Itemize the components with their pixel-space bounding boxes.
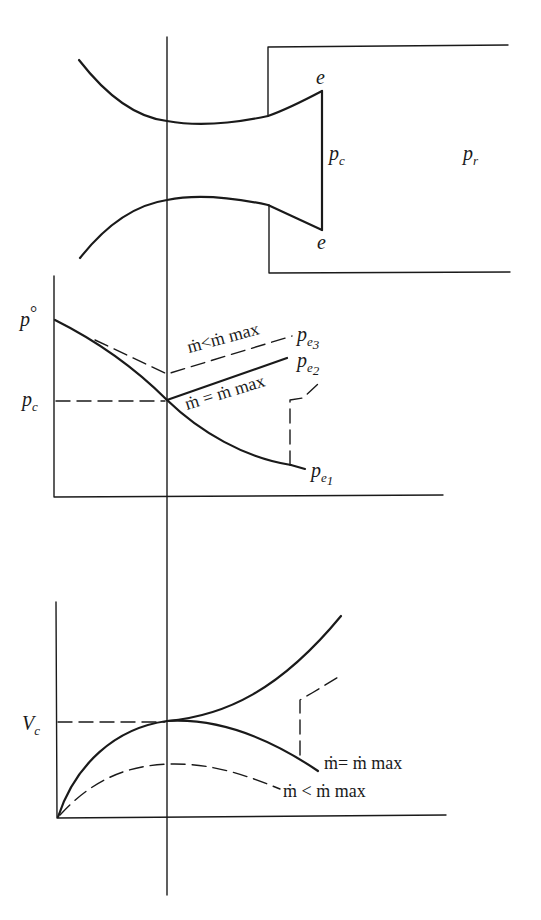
velocity-curve-rise — [58, 721, 167, 817]
pe3-label: pe3 — [295, 323, 320, 352]
pressure-curve-supersonic-tail — [291, 465, 305, 469]
nozzle-flow-diagram: e e pc pr p° pc ṁ<ṁ max ṁ = ṁ m — [0, 0, 541, 920]
velocity-shock-line — [300, 676, 340, 755]
exit-pressure-label: pc — [327, 142, 345, 168]
nozzle-sketch: e e pc pr — [79, 45, 510, 273]
nozzle-upper-wall — [79, 60, 322, 124]
pressure-annotation-equal: ṁ = ṁ max — [182, 371, 267, 414]
pressure-annotation-less: ṁ<ṁ max — [185, 318, 261, 356]
velocity-plot: Vc ṁ= ṁ max ṁ < ṁ max — [22, 602, 446, 818]
p-critical-label: pc — [20, 388, 38, 414]
velocity-annotation-equal: ṁ= ṁ max — [324, 753, 402, 773]
velocity-annotation-less: ṁ < ṁ max — [283, 781, 366, 801]
pressure-shock-line — [290, 383, 319, 465]
p-stagnation-label: p° — [18, 303, 37, 331]
velocity-axes — [56, 602, 446, 818]
velocity-curve-subsonic — [167, 721, 318, 771]
receiver-chamber-bottom — [269, 205, 510, 273]
v-critical-label: Vc — [22, 712, 40, 738]
nozzle-lower-wall — [80, 197, 322, 258]
receiver-chamber — [268, 45, 508, 116]
pressure-plot: p° pc ṁ<ṁ max ṁ = ṁ max pe3 pe2 pe1 — [18, 276, 443, 497]
pe1-label: pe1 — [309, 459, 333, 488]
velocity-curve-less — [60, 764, 280, 815]
velocity-curve-supersonic — [167, 616, 341, 721]
exit-label-top: e — [316, 66, 325, 88]
receiver-pressure-label: pr — [461, 142, 479, 168]
pe2-label: pe2 — [295, 349, 320, 378]
exit-label-bottom: e — [317, 231, 326, 253]
